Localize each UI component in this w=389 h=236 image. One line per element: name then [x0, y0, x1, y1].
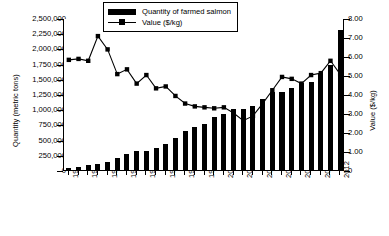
legend-label-value: Value ($/kg)	[142, 18, 182, 27]
line-marker-value	[231, 111, 235, 115]
x-axis-tick-mark	[271, 171, 272, 175]
x-axis-tick-mark	[184, 171, 185, 175]
line-marker-value	[319, 71, 323, 75]
line-marker-value	[338, 72, 342, 76]
line-marker-value	[309, 73, 313, 77]
line-marker-value	[164, 84, 168, 88]
x-axis-tick-mark	[310, 171, 311, 175]
y-axis-right-tick-label: 7.00	[348, 33, 363, 42]
line-marker-value	[241, 118, 245, 122]
y-axis-right-tick-label: 6.00	[348, 52, 363, 61]
line-marker-value	[96, 34, 100, 38]
x-axis-tick-mark	[126, 171, 127, 175]
x-axis-tick-mark	[68, 171, 69, 175]
plot-area	[63, 19, 344, 171]
x-axis-tick-mark	[145, 171, 146, 175]
line-series-value	[64, 19, 345, 171]
x-axis-tick-mark	[223, 171, 224, 175]
legend-line-swatch-icon	[108, 18, 136, 27]
x-axis-tick-mark	[300, 171, 301, 175]
chart-legend: Quantity of farmed salmon Value ($/kg)	[103, 2, 238, 32]
line-marker-value	[328, 59, 332, 63]
x-axis-tick-mark	[87, 171, 88, 175]
line-marker-value	[260, 101, 264, 105]
y-axis-right-tick-label: 8.00	[348, 14, 363, 23]
line-marker-value	[115, 72, 119, 76]
y-axis-right-tick-label: 4.00	[348, 90, 363, 99]
line-marker-value	[154, 86, 158, 90]
line-marker-value	[202, 105, 206, 109]
line-marker-value	[134, 81, 138, 85]
x-axis-tick-mark	[194, 171, 195, 175]
y-axis-right-tick-label: 3.00	[348, 109, 363, 118]
line-marker-value	[222, 105, 226, 109]
legend-label-quantity: Quantity of farmed salmon	[142, 7, 231, 16]
x-axis-tick-mark	[165, 171, 166, 175]
x-axis-tick-mark	[174, 171, 175, 175]
x-axis-tick-mark	[291, 171, 292, 175]
y-axis-right-tick-label: 5.00	[348, 71, 363, 80]
line-marker-value	[193, 104, 197, 108]
y-axis-right-tick-label: 2.00	[348, 128, 363, 137]
line-marker-value	[144, 73, 148, 77]
line-marker-value	[105, 47, 109, 51]
x-axis-tick-mark	[329, 171, 330, 175]
x-axis-tick-mark	[252, 171, 253, 175]
line-marker-value	[183, 101, 187, 105]
line-marker-value	[67, 58, 71, 62]
y-axis-left-tick-mark	[57, 171, 63, 172]
y-axis-right-title: Value ($/kg)	[368, 41, 377, 181]
x-axis-tick-mark	[204, 171, 205, 175]
x-axis-tick-mark	[233, 171, 234, 175]
x-axis-tick-mark	[262, 171, 263, 175]
line-marker-value	[280, 75, 284, 79]
x-axis-tick-mark	[107, 171, 108, 175]
x-axis-tick-mark	[339, 171, 340, 175]
legend-bar-swatch-icon	[108, 9, 136, 15]
x-axis-tick-mark	[97, 171, 98, 175]
y-axis-right-tick-label: 1.00	[348, 147, 363, 156]
x-axis-tick-mark	[78, 171, 79, 175]
line-marker-value	[290, 77, 294, 81]
line-marker-value	[76, 57, 80, 61]
salmon-aquaculture-chart: Quantity (metric tons) Value ($/kg) 0250…	[0, 0, 389, 236]
line-marker-value	[270, 88, 274, 92]
legend-item-value: Value ($/kg)	[108, 17, 231, 28]
line-marker-value	[251, 114, 255, 118]
line-marker-value	[86, 59, 90, 63]
y-axis-left-title: Quantity (metric tons)	[11, 41, 20, 181]
legend-item-quantity: Quantity of farmed salmon	[108, 6, 231, 17]
x-axis-tick-mark	[320, 171, 321, 175]
x-axis-tick-mark	[116, 171, 117, 175]
line-marker-value	[125, 67, 129, 71]
x-axis-tick-mark	[281, 171, 282, 175]
line-marker-value	[212, 106, 216, 110]
x-axis-tick-mark	[213, 171, 214, 175]
x-axis-tick-mark	[155, 171, 156, 175]
x-axis-tick-mark	[242, 171, 243, 175]
line-marker-value	[173, 94, 177, 98]
line-marker-value	[299, 81, 303, 85]
x-axis-tick-mark	[136, 171, 137, 175]
